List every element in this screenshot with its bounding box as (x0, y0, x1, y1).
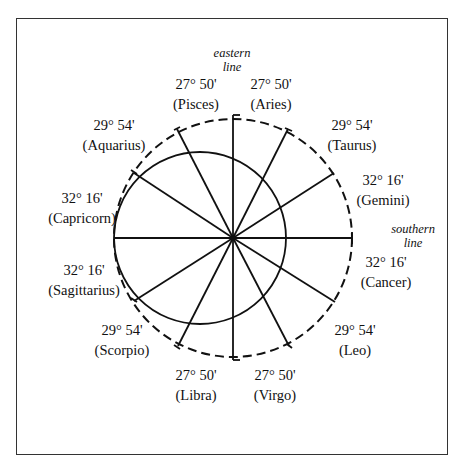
label-taurus: 29° 54' (Taurus) (328, 115, 377, 155)
label-cancer: 32° 16' (Cancer) (361, 252, 412, 292)
eastern-line-label: eastern line (214, 46, 251, 74)
label-virgo: 27° 50' (Virgo) (254, 365, 296, 405)
label-gemini: 32° 16' (Gemini) (356, 170, 409, 210)
label-aries: 27° 50' (Aries) (250, 74, 291, 114)
label-leo: 29° 54' (Leo) (334, 320, 375, 360)
label-aquarius: 29° 54' (Aquarius) (83, 115, 146, 155)
label-libra: 27° 50' (Libra) (175, 365, 216, 405)
southern-line-label: southern line (391, 222, 435, 250)
label-scorpio: 29° 54' (Scorpio) (95, 320, 150, 360)
label-sagittarius: 32° 16' (Sagittarius) (48, 260, 120, 300)
label-capricorn: 32° 16' (Capricorn) (48, 188, 116, 228)
label-pisces: 27° 50' (Pisces) (173, 74, 219, 114)
center-point (231, 236, 236, 241)
